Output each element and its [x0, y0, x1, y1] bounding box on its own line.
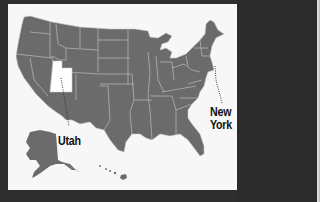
new-york-leader-line — [215, 66, 222, 103]
hawaii — [99, 165, 127, 180]
utah-label: Utah — [58, 134, 81, 147]
new-york-label: New York — [210, 105, 232, 131]
new-york-label-line2: York — [210, 118, 232, 131]
us-map — [0, 0, 237, 202]
